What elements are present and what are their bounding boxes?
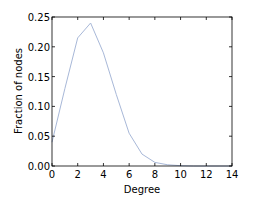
x-tick-label: 4 xyxy=(100,169,106,180)
y-tick-label: 0.00 xyxy=(28,161,50,172)
x-tick-label: 8 xyxy=(152,169,158,180)
x-tick-label: 6 xyxy=(126,169,132,180)
y-axis-ticks: 0.000.050.100.150.200.25 xyxy=(28,12,232,172)
series-line-0 xyxy=(52,23,232,166)
x-axis-label: Degree xyxy=(124,184,160,195)
x-tick-label: 10 xyxy=(174,169,187,180)
y-tick-label: 0.10 xyxy=(28,101,50,112)
y-tick-label: 0.05 xyxy=(28,131,50,142)
x-tick-label: 12 xyxy=(200,169,213,180)
chart: 02468101214 0.000.050.100.150.200.25 Deg… xyxy=(0,0,256,205)
plot-frame xyxy=(52,17,232,166)
y-tick-label: 0.15 xyxy=(28,72,50,83)
y-tick-label: 0.20 xyxy=(28,42,50,53)
y-axis-label: Fraction of nodes xyxy=(13,48,24,134)
x-tick-label: 14 xyxy=(226,169,239,180)
x-tick-label: 2 xyxy=(75,169,81,180)
y-tick-label: 0.25 xyxy=(28,12,50,23)
data-line xyxy=(52,23,232,166)
